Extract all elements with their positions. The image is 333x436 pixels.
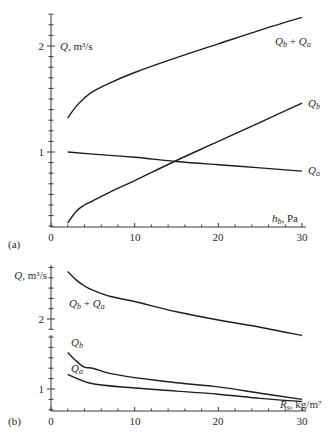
panel-a: 2 1 Q, m³/s 0 10 20 30 hb, Pa (a) Qb + Q… bbox=[8, 14, 320, 251]
panel-b-ytick-1: 1 bbox=[39, 383, 45, 395]
panel-a-label: (a) bbox=[8, 238, 21, 251]
panel-a-xtick-10: 10 bbox=[130, 231, 142, 243]
panel-a-ytick-1: 1 bbox=[39, 146, 45, 158]
panel-a-curve-qa bbox=[68, 152, 302, 171]
panel-b-curve-qa bbox=[68, 374, 302, 401]
panel-b-x-ticks bbox=[51, 407, 302, 411]
panel-b-legend-qb: Qb bbox=[71, 336, 83, 350]
panel-b-ytick-2: 2 bbox=[39, 313, 45, 325]
panel-a-xtick-30: 30 bbox=[297, 231, 309, 243]
panel-a-xlabel: hb, Pa bbox=[272, 212, 298, 226]
panel-b-xtick-20: 20 bbox=[213, 415, 225, 427]
panel-b-ylabel: Q, m³/s bbox=[14, 269, 47, 281]
panel-b-legend-qb-plus-qa: Qb + Qa bbox=[69, 297, 105, 311]
panel-b-xtick-10: 10 bbox=[130, 415, 142, 427]
figure: 2 1 Q, m³/s 0 10 20 30 hb, Pa (a) Qb + Q… bbox=[0, 0, 333, 436]
panel-a-x-ticks bbox=[51, 223, 302, 227]
panel-a-legend-qb: Qb bbox=[308, 97, 320, 111]
panel-a-curve-qb bbox=[68, 103, 302, 223]
panel-a-y-ticks bbox=[47, 14, 55, 226]
panel-a-legend-qa: Qa bbox=[308, 164, 320, 178]
panel-a-ytick-2: 2 bbox=[39, 40, 45, 52]
panel-b-xtick-0: 0 bbox=[48, 415, 54, 427]
panel-b-label: (b) bbox=[8, 415, 21, 428]
panel-a-legend-qb-plus-qa: Qb + Qa bbox=[275, 35, 311, 49]
panel-a-xtick-20: 20 bbox=[213, 231, 225, 243]
panel-b-xtick-30: 30 bbox=[297, 415, 309, 427]
panel-a-curve-qb-plus-qa bbox=[68, 17, 302, 118]
panel-b-legend-qa: Qa bbox=[71, 362, 83, 376]
panel-b: 2 1 Q, m³/s 0 10 20 30 Rs, kg/m⁷ (b) Qb … bbox=[8, 265, 322, 428]
panel-a-ylabel: Q, m³/s bbox=[60, 40, 93, 52]
panel-a-xtick-0: 0 bbox=[48, 231, 54, 243]
